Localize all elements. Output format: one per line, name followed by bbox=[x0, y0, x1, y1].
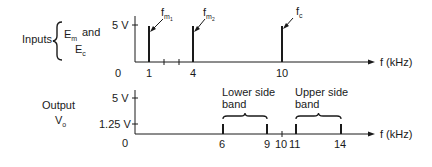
ec-symbol: Ec bbox=[75, 43, 86, 57]
am-spectrum-diagram: Inputs Em and Ec 5 V 0 fm1 fm2 fc 1 4 10… bbox=[0, 0, 432, 167]
upper-band-label-1: Upper side bbox=[295, 86, 348, 98]
lower-band-label-1: Lower side bbox=[222, 86, 275, 98]
inputs-xtick-1: 1 bbox=[146, 67, 152, 79]
output-xtick-9: 9 bbox=[264, 138, 270, 150]
inputs-xtick-10: 10 bbox=[276, 67, 288, 79]
output-1-25v-label: 1.25 V bbox=[99, 118, 131, 130]
and-text: and bbox=[82, 26, 100, 38]
output-xtick-11: 11 bbox=[289, 138, 300, 150]
lower-band-brace bbox=[223, 113, 267, 119]
inputs-origin-label: 0 bbox=[115, 67, 121, 79]
output-label: Output bbox=[42, 99, 75, 111]
output-x-axis-label: f (kHz) bbox=[380, 128, 412, 140]
inputs-x-axis-label: f (kHz) bbox=[380, 56, 412, 68]
output-5v-label: 5 V bbox=[112, 92, 129, 104]
inputs-xtick-4: 4 bbox=[190, 67, 196, 79]
arrow-right-icon bbox=[368, 132, 375, 137]
output-xtick-6: 6 bbox=[219, 138, 225, 150]
inputs-5v-label: 5 V bbox=[112, 19, 129, 31]
upper-band-brace bbox=[296, 113, 341, 119]
em-symbol: Em bbox=[64, 28, 77, 42]
output-xtick-14: 14 bbox=[334, 138, 346, 150]
output-xtick-10: 10 bbox=[275, 138, 287, 150]
arrow-right-icon bbox=[368, 60, 375, 65]
vo-symbol: Vo bbox=[55, 114, 66, 128]
lower-band-label-2: band bbox=[222, 98, 246, 110]
output-origin-label: 0 bbox=[122, 137, 128, 149]
fc-label: fc bbox=[296, 5, 303, 19]
upper-band-label-2: band bbox=[295, 98, 319, 110]
inputs-label: Inputs bbox=[22, 33, 52, 45]
brace-icon bbox=[53, 22, 62, 60]
